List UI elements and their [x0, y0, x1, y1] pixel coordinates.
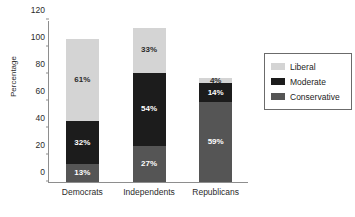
y-axis-tick-mark — [46, 100, 49, 101]
x-axis-tick-label: Independents — [123, 187, 175, 197]
y-axis-tick-label: 0 — [40, 167, 49, 177]
bar-republicans: 4%14%59% — [199, 78, 232, 182]
bar-segment-value-label: 61% — [74, 76, 90, 84]
y-axis-tick-label: 60 — [36, 86, 49, 96]
y-axis-tick-mark — [46, 181, 49, 182]
y-axis-tick-mark — [46, 154, 49, 155]
y-axis-tick-mark — [46, 127, 49, 128]
bar-segment-conservative: 27% — [133, 146, 166, 182]
bar-segment-value-label: 14% — [208, 89, 224, 97]
bar-independents: 33%54%27% — [133, 28, 166, 182]
y-axis-tick-mark — [46, 73, 49, 74]
y-axis-tick-label: 20 — [36, 140, 49, 150]
legend-item-liberal: Liberal — [271, 59, 347, 74]
y-axis-tick-label: 40 — [36, 113, 49, 123]
bar-segment-value-label: 33% — [141, 46, 157, 54]
bar-segment-moderate: 54% — [133, 73, 166, 146]
bar-segment-moderate: 14% — [199, 83, 232, 102]
bar-democrats: 61%32%13% — [66, 39, 99, 182]
legend-swatch-icon — [271, 78, 285, 85]
y-axis-tick-label: 120 — [31, 5, 49, 15]
legend-item-label: Conservative — [290, 92, 340, 102]
stacked-bar-chart: Percentage 02040608010012061%32%13%Democ… — [0, 0, 355, 217]
bar-segment-value-label: 54% — [141, 105, 157, 113]
y-axis-tick-mark — [46, 46, 49, 47]
legend-swatch-icon — [271, 93, 285, 100]
plot-area: 02040608010012061%32%13%Democrats33%54%2… — [48, 21, 248, 183]
bar-segment-value-label: 59% — [208, 138, 224, 146]
bar-segment-moderate: 32% — [66, 121, 99, 164]
bar-segment-conservative: 59% — [199, 102, 232, 182]
x-axis-tick-label: Republicans — [192, 187, 239, 197]
legend-swatch-icon — [271, 63, 285, 70]
legend-item-moderate: Moderate — [271, 74, 347, 89]
bar-segment-value-label: 32% — [74, 139, 90, 147]
chart-legend: LiberalModerateConservative — [264, 53, 352, 110]
legend-item-conservative: Conservative — [271, 89, 347, 104]
bar-segment-liberal: 33% — [133, 28, 166, 73]
bar-segment-conservative: 13% — [66, 164, 99, 182]
bar-segment-value-label: 13% — [74, 169, 90, 177]
y-axis-tick-label: 80 — [36, 59, 49, 69]
legend-item-label: Moderate — [290, 77, 326, 87]
legend-item-label: Liberal — [290, 62, 316, 72]
bar-segment-value-label: 27% — [141, 160, 157, 168]
x-axis-tick-label: Democrats — [62, 187, 103, 197]
y-axis-tick-mark — [46, 19, 49, 20]
y-axis-label: Percentage — [9, 42, 18, 112]
y-axis-tick-label: 100 — [31, 32, 49, 42]
bar-segment-liberal: 61% — [66, 39, 99, 121]
